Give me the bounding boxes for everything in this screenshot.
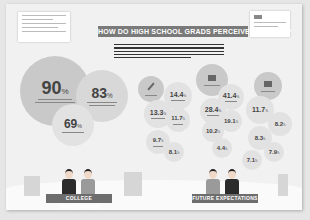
student-head	[65, 169, 73, 179]
briefcase-icon	[264, 81, 272, 87]
building	[278, 174, 288, 196]
note-card-left	[18, 12, 70, 42]
graduate-figure	[206, 179, 220, 195]
college-perceptions-label: COLLEGE PERCEPTIONS	[46, 194, 112, 203]
intro-text	[114, 42, 224, 60]
student-head	[84, 169, 92, 179]
page-title: HOW DO HIGH SCHOOL GRADS PERCEIVE COLLEG…	[98, 26, 248, 37]
building	[124, 172, 142, 196]
stat-bubble: 7.1%	[242, 150, 262, 170]
pencil-icon	[147, 82, 154, 90]
graduate-figure	[225, 179, 239, 195]
stat-bubble: 8.1%	[164, 142, 184, 162]
perception-bubble-3: 69%	[52, 104, 94, 146]
pencil-icon-bubble	[138, 76, 164, 102]
stat-bubble: 4.4%	[212, 138, 232, 158]
infographic-sheet: HOW DO HIGH SCHOOL GRADS PERCEIVE COLLEG…	[6, 4, 302, 210]
future-expectations-label: FUTURE EXPECTATIONS	[192, 194, 258, 203]
stat-bubble: 11.7%	[166, 108, 190, 132]
graduate-head	[228, 169, 236, 179]
stat-bubble: 8.2%	[268, 112, 292, 136]
student-figure	[81, 179, 95, 195]
student-figure	[62, 179, 76, 195]
graduate-head	[209, 169, 217, 179]
computer-icon	[208, 75, 216, 81]
stat-bubble: 7.9%	[264, 142, 284, 162]
building	[24, 176, 40, 196]
